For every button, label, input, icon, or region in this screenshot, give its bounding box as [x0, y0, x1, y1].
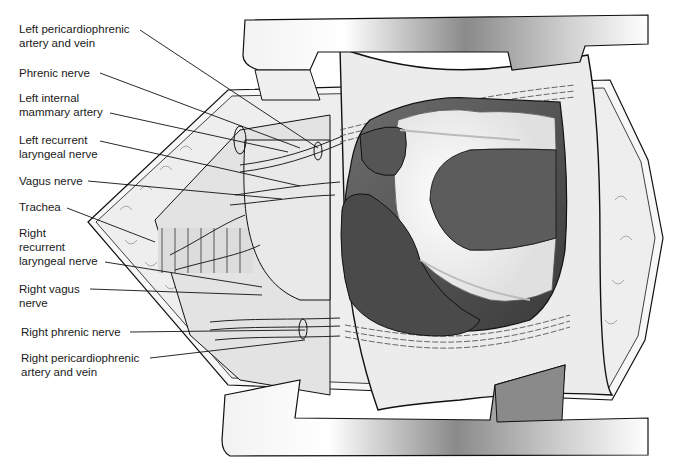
label-trachea: Trachea [19, 200, 61, 214]
anatomical-illustration [0, 0, 675, 471]
label-phrenic-nerve: Phrenic nerve [19, 66, 90, 80]
label-right-vagus: Right vagus nerve [19, 282, 80, 310]
label-right-pericardiophrenic: Right pericardiophrenic artery and vein [21, 351, 139, 379]
label-vagus-nerve: Vagus nerve [19, 174, 83, 188]
label-right-phrenic: Right phrenic nerve [21, 325, 121, 339]
label-left-internal-mammary: Left internal mammary artery [19, 91, 103, 119]
label-left-pericardiophrenic: Left pericardiophrenic artery and vein [19, 22, 130, 50]
heart [341, 98, 567, 336]
label-left-recurrent-laryngeal: Left recurrent laryngeal nerve [19, 133, 98, 161]
label-right-recurrent-laryngeal: Right recurrent laryngeal nerve [19, 226, 98, 268]
trachea [158, 228, 253, 273]
